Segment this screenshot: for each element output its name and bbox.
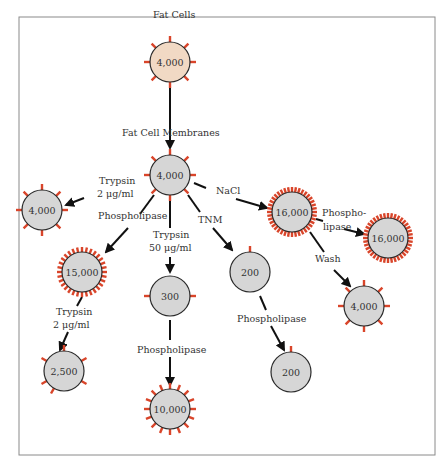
binding-value: 16,000: [371, 233, 404, 244]
label-trypsin-a-conc: 2 μg/ml: [97, 188, 134, 199]
binding-value: 2,500: [50, 366, 77, 377]
cell-nacl-phospho: 16,000: [363, 213, 413, 263]
binding-value: 4,000: [156, 170, 183, 181]
cell-phospholipase: 15,000: [57, 247, 107, 297]
binding-value: 16,000: [275, 207, 308, 218]
binding-value: 4,000: [28, 205, 55, 216]
label-nacl: NaCl: [216, 185, 240, 196]
label-tnm: TNM: [198, 214, 223, 225]
binding-value: 10,000: [153, 404, 186, 415]
label-trypsin-b: Trypsin: [153, 229, 189, 240]
binding-value: 300: [161, 291, 179, 302]
label-phospho-split2: lipase: [323, 221, 352, 232]
label-phospholipase-a: Phospholipase: [98, 210, 168, 221]
binding-value: 200: [282, 367, 300, 378]
binding-value: 4,000: [350, 301, 377, 312]
binding-value: 15,000: [65, 267, 98, 278]
cell-trypsin50-phospho: 10,000: [144, 383, 196, 435]
label-trypsin-c: Trypsin: [56, 306, 92, 317]
label-phospholipase-c: Phospholipase: [237, 313, 307, 324]
label-trypsin-a: Trypsin: [99, 175, 135, 186]
label-phospholipase-b: Phospholipase: [137, 344, 207, 355]
receptor-diagram: Fat Cells Fat Cell Membranes Trypsin 2 μ…: [0, 0, 446, 464]
cell-membranes: 4,000: [144, 149, 196, 201]
label-trypsin-b-conc: 50 μg/ml: [149, 242, 192, 253]
label-trypsin-c-conc: 2 μg/ml: [53, 319, 90, 330]
binding-value: 200: [241, 267, 259, 278]
label-phospho-split1: Phospho-: [322, 207, 366, 218]
cell-trypsin2: 4,000: [16, 184, 68, 236]
label-wash: Wash: [315, 253, 341, 264]
cell-nacl: 16,000: [267, 187, 317, 237]
label-fat-cells: Fat Cells: [153, 9, 195, 20]
label-fat-cell-membranes: Fat Cell Membranes: [122, 127, 220, 138]
cell-wash: 4,000: [338, 280, 390, 332]
cell-fat-cells: 4,000: [144, 36, 196, 88]
binding-value: 4,000: [156, 57, 183, 68]
